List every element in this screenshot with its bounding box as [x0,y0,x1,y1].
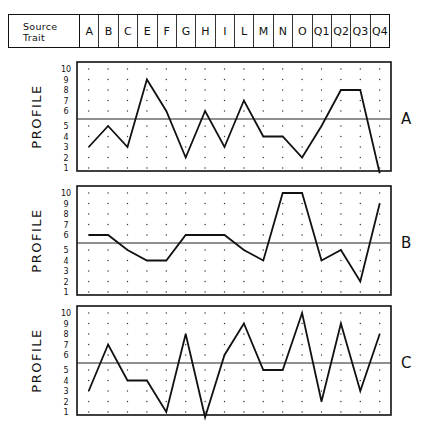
grid-dot [146,354,147,355]
grid-dot [127,260,128,261]
grid-dot [379,100,380,101]
grid-dot [263,333,264,334]
grid-dot [224,167,225,168]
grid-dot [263,203,264,204]
grid-dot [321,380,322,381]
grid-dot [321,136,322,137]
grid-dot [379,79,380,80]
y-tick-label: 5 [63,246,68,255]
grid-dot [127,323,128,324]
grid-dot [360,157,361,158]
grid-dot [282,146,283,147]
grid-dot [88,110,89,111]
grid-dot [146,157,147,158]
grid-dot [379,224,380,225]
grid-dot [224,291,225,292]
grid-dot [88,249,89,250]
grid-dot [340,157,341,158]
grid-dot [340,146,341,147]
grid-dot [107,270,108,271]
grid-dot [301,213,302,214]
grid-dot [204,270,205,271]
grid-dot [146,411,147,412]
grid-dot [379,68,380,69]
grid-dot [224,380,225,381]
grid-dot [340,260,341,261]
grid-dot [166,281,167,282]
grid-dot [360,411,361,412]
grid-dot [263,234,264,235]
grid-dot [185,224,186,225]
grid-dot [321,281,322,282]
grid-dot [282,281,283,282]
grid-dot [127,401,128,402]
grid-dot [185,79,186,80]
grid-dot [204,68,205,69]
panel-frame [77,306,391,415]
grid-dot [224,68,225,69]
grid-dot [360,167,361,168]
grid-dot [321,203,322,204]
grid-dot [282,270,283,271]
grid-dot [263,213,264,214]
grid-dot [88,260,89,261]
grid-dot [340,79,341,80]
grid-dot [204,281,205,282]
grid-dot [360,260,361,261]
grid-dot [301,110,302,111]
grid-dot [301,281,302,282]
grid-dot [301,291,302,292]
grid-dot [224,333,225,334]
grid-dot [321,249,322,250]
grid-dot [88,291,89,292]
grid-dot [204,333,205,334]
grid-dot [127,203,128,204]
grid-dot [340,312,341,313]
y-tick-label: 4 [63,377,68,386]
grid-dot [204,167,205,168]
grid-dot [146,167,147,168]
grid-dot [185,125,186,126]
grid-dot [340,401,341,402]
grid-dot [321,354,322,355]
grid-dot [360,380,361,381]
grid-dot [127,344,128,345]
grid-dot [204,157,205,158]
grid-dot [360,270,361,271]
grid-dot [263,344,264,345]
panel-label: C [401,354,411,372]
grid-dot [107,203,108,204]
grid-dot [127,125,128,126]
grid-dot [224,157,225,158]
grid-dot [379,411,380,412]
grid-dot [379,146,380,147]
grid-dot [166,146,167,147]
y-tick-label: 1 [63,164,68,173]
grid-dot [166,213,167,214]
grid-dot [301,390,302,391]
grid-dot [88,125,89,126]
grid-dot [340,100,341,101]
y-tick-label: 5 [63,366,68,375]
grid-dot [127,68,128,69]
grid-dot [224,100,225,101]
grid-dot [127,390,128,391]
y-tick-label: 4 [63,133,68,142]
grid-dot [340,234,341,235]
grid-dot [146,234,147,235]
grid-dot [88,68,89,69]
grid-dot [263,270,264,271]
grid-dot [107,110,108,111]
grid-dot [127,157,128,158]
grid-dot [224,224,225,225]
grid-dot [379,312,380,313]
grid-dot [204,79,205,80]
profile-line-a [89,80,380,174]
grid-dot [224,125,225,126]
grid-dot [379,136,380,137]
y-tick-label: 2 [63,154,68,163]
grid-dot [146,333,147,334]
grid-dot [263,167,264,168]
grid-dot [263,146,264,147]
grid-dot [282,224,283,225]
